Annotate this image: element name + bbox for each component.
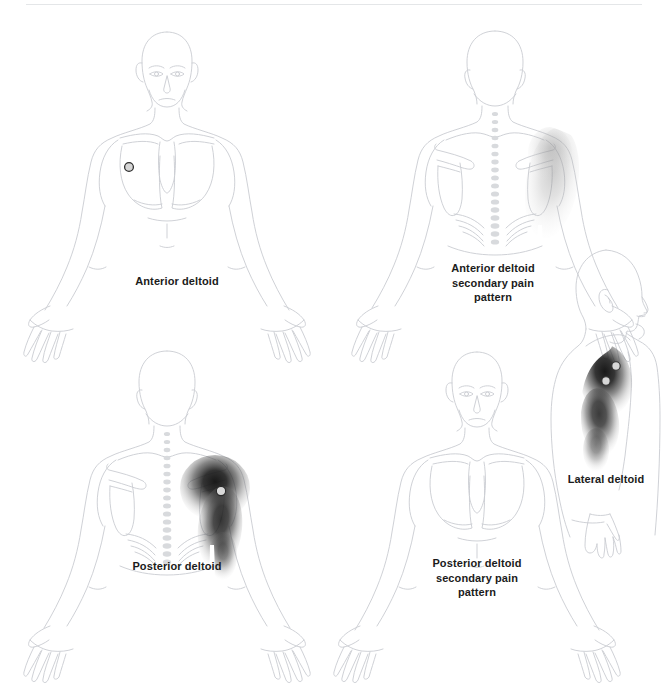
figure-anterior-deltoid: Anterior deltoid — [10, 18, 324, 348]
trigger-point-marker — [125, 163, 134, 172]
top-divider-rule — [26, 4, 642, 5]
trigger-point-marker-lower — [602, 377, 610, 385]
anterior-body-illustration — [10, 18, 324, 348]
pain-region-posterior-deltoid — [180, 455, 250, 580]
pain-region-anterior-deltoid-secondary — [518, 124, 587, 243]
anterior-body-outline — [24, 32, 310, 363]
figure-posterior-deltoid: Posterior deltoid — [10, 338, 324, 668]
figure-lateral-deltoid: Lateral deltoid — [540, 232, 668, 562]
trigger-point-marker — [216, 486, 225, 495]
pain-region-lateral-deltoid — [575, 341, 637, 472]
lateral-body-illustration — [540, 232, 668, 562]
trigger-point-marker-upper — [612, 362, 620, 370]
anatomical-figure-plate: Anterior deltoid — [0, 0, 668, 686]
posterior-body-outline-2 — [24, 351, 310, 683]
pain-region-anterior-deltoid — [56, 108, 168, 268]
posterior-body-illustration-2 — [10, 338, 324, 668]
